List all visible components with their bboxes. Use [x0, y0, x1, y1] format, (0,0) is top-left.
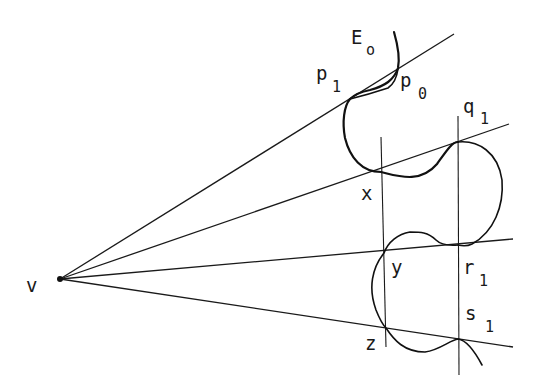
label-p0: p — [400, 69, 411, 91]
label-s1-sub: 1 — [485, 318, 494, 336]
label-q1: q — [463, 95, 474, 117]
label-p1-sub: 1 — [332, 78, 341, 96]
label-r1-sub: 1 — [479, 272, 488, 290]
curve-lower-loop — [372, 232, 482, 365]
curve-eo-upper — [344, 32, 458, 177]
label-q1-sub: 1 — [480, 110, 489, 128]
labels: E o p 1 p 0 q 1 x y z r 1 s 1 v — [26, 26, 494, 354]
vertex-point — [57, 276, 63, 282]
ray-1 — [60, 34, 454, 279]
label-x: x — [361, 182, 372, 204]
rays — [60, 34, 513, 347]
ray-4 — [60, 279, 513, 347]
label-e-sub: o — [366, 41, 375, 59]
label-v: v — [26, 274, 37, 296]
vertical-left — [381, 137, 386, 347]
label-p1: p — [316, 62, 327, 84]
label-s1: s — [465, 302, 476, 324]
curve-right-lobe — [458, 142, 502, 246]
ray-2 — [60, 124, 509, 279]
label-r1: r — [463, 256, 474, 278]
label-y: y — [391, 256, 402, 278]
geometry-diagram: E o p 1 p 0 q 1 x y z r 1 s 1 v — [0, 0, 540, 383]
label-z: z — [365, 332, 376, 354]
label-e: E — [351, 26, 362, 48]
label-p0-sub: 0 — [418, 85, 427, 103]
